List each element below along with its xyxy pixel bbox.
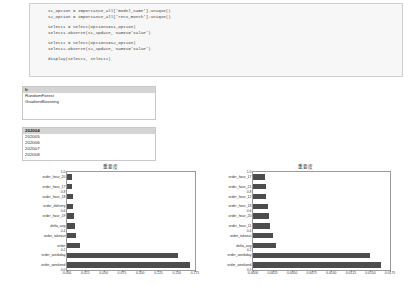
x-axis-tick-mark: [122, 270, 123, 272]
bar-row: order_takeout: [253, 233, 390, 239]
bar-category-label: order_hour_20: [229, 213, 252, 219]
x-axis-tick-label: 0.0175: [385, 271, 395, 275]
bar-row: order_delivery: [67, 203, 195, 209]
bar-category-label: order_hour_12: [229, 194, 252, 200]
feature-importance-chart-left: 重要度 order_weekendorder_weekdayorderorder…: [18, 162, 203, 284]
x-axis-tick-label: 0.0000: [248, 271, 258, 275]
bar: [253, 223, 270, 228]
y-axis-tick-label: 0.2: [247, 248, 252, 252]
y-axis-tick-label: 0.4: [247, 229, 252, 233]
plot-area: order_weekendorder_weekdayorderorder_tak…: [66, 171, 196, 271]
y-axis-tick-label: 0.4: [61, 229, 66, 233]
bar: [67, 233, 76, 238]
bar: [67, 253, 178, 258]
code-line: display(select1, select2): [48, 56, 402, 62]
plot-area: order_weekendorder_weekdaydelta_avgorder…: [252, 171, 391, 271]
bar-category-label: order_hour_19: [43, 213, 66, 219]
bar-row: order_weekend: [67, 262, 195, 268]
bar-row: delta_avg: [253, 243, 390, 249]
bar: [253, 253, 370, 258]
y-axis-tick-label: 1.0: [247, 170, 252, 174]
x-axis-tick-label: 0.0150: [365, 271, 375, 275]
bar-row: delta_avg: [67, 223, 195, 229]
x-axis-tick-mark: [104, 270, 105, 272]
bar-row: order_takeout: [67, 233, 195, 239]
y-axis-tick-label: 1.0: [61, 170, 66, 174]
x-axis-tick-mark: [370, 270, 371, 272]
x-axis-tick-label: 0.075: [118, 271, 127, 275]
bar: [67, 194, 73, 199]
bar-row: order_hour_12: [253, 194, 390, 200]
bar-row: order_hour_18: [253, 203, 390, 209]
select-month-option[interactable]: 202008: [23, 152, 155, 158]
x-axis-tick-label: 0.150: [172, 271, 181, 275]
bar-row: order_hour_11: [253, 223, 390, 229]
bar: [253, 262, 381, 267]
x-axis-tick-mark: [331, 270, 332, 272]
bar: [67, 174, 72, 179]
chart-title: 重要度: [208, 163, 403, 169]
x-axis-tick-mark: [158, 270, 159, 272]
x-axis-tick-mark: [67, 270, 68, 272]
bar: [253, 243, 276, 248]
x-axis-tick-mark: [195, 270, 196, 272]
bar: [67, 184, 72, 189]
bar: [253, 184, 266, 189]
x-axis-tick-label: 0.175: [191, 271, 200, 275]
bar: [253, 213, 269, 218]
bar-row: order_hour_18: [67, 194, 195, 200]
bar-category-label: order_takeout: [44, 233, 66, 239]
x-axis-tick-mark: [292, 270, 293, 272]
bar-category-label: order_hour_20: [43, 174, 66, 180]
x-axis-tick-mark: [140, 270, 141, 272]
bar-category-label: order_weekday: [42, 252, 66, 258]
select-month-listbox[interactable]: 202004 202005 202006 202007 202008: [22, 127, 156, 161]
chart-title: 重要度: [18, 163, 203, 169]
x-axis-tick-label: 0.0100: [326, 271, 336, 275]
bar: [253, 194, 266, 199]
y-axis-tick-label: 0.2: [61, 248, 66, 252]
bar-row: order_hour_20: [67, 174, 195, 180]
x-axis-tick-label: 0.0125: [346, 271, 356, 275]
bar: [67, 213, 74, 218]
select-model-listbox[interactable]: lr RandomForest GradientBoosting: [22, 86, 156, 120]
bar-row: order: [67, 243, 195, 249]
bar-category-label: order_weekday: [228, 252, 252, 258]
bar-row: order_weekend: [253, 262, 390, 268]
x-axis-tick-mark: [351, 270, 352, 272]
bar-row: order_hour_20: [253, 213, 390, 219]
x-axis-tick-label: 0.100: [136, 271, 145, 275]
x-axis-tick-mark: [312, 270, 313, 272]
bar: [253, 233, 273, 238]
bar-row: order_weekday: [253, 252, 390, 258]
x-axis-tick-label: 0.050: [99, 271, 108, 275]
x-axis-tick-mark: [273, 270, 274, 272]
code-cell[interactable]: s1_option = importance_all['model_name']…: [29, 3, 403, 77]
bar-row: order_hour_19: [67, 213, 195, 219]
bar-category-label: order_takeout: [230, 233, 252, 239]
code-cell-content: s1_option = importance_all['model_name']…: [30, 4, 402, 62]
y-axis-tick-label: 0.6: [247, 209, 252, 213]
x-axis-tick-label: 0.0025: [267, 271, 277, 275]
x-axis-tick-label: 0.125: [154, 271, 163, 275]
select-model-option[interactable]: GradientBoosting: [23, 99, 155, 105]
y-axis-tick-label: 0.6: [61, 209, 66, 213]
x-axis-tick-mark: [390, 270, 391, 272]
bar-row: order_hour_21: [253, 184, 390, 190]
x-axis-tick-label: 0.025: [81, 271, 90, 275]
x-axis-tick-mark: [177, 270, 178, 272]
x-axis-tick-label: 0.000: [63, 271, 72, 275]
bar-row: order_hour_17: [253, 174, 390, 180]
bar: [253, 204, 268, 209]
x-axis-tick-label: 0.0050: [287, 271, 297, 275]
x-axis-tick-mark: [253, 270, 254, 272]
y-axis-tick-label: 0.8: [61, 190, 66, 194]
bar-row: order_weekday: [67, 252, 195, 258]
x-axis-tick-mark: [85, 270, 86, 272]
y-axis-tick-label: 0.8: [247, 190, 252, 194]
bar: [67, 262, 190, 267]
bar: [253, 174, 265, 179]
bar-row: order_hour_17: [67, 184, 195, 190]
bar: [67, 204, 73, 209]
bar: [67, 243, 80, 248]
